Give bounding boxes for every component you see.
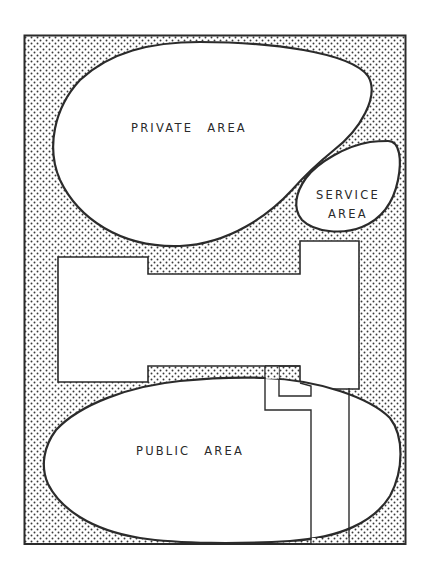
public-area-label-word2: AREA — [204, 446, 244, 458]
private-area-label-word2: AREA — [207, 123, 247, 135]
private-area-label: PRIVATEAREA — [131, 123, 247, 135]
public-area-bubble — [44, 378, 401, 543]
public-area-label: PUBLICAREA — [136, 446, 244, 458]
public-area-label-word1: PUBLIC — [136, 446, 190, 458]
site-zoning-diagram — [0, 0, 430, 581]
private-area-label-word1: PRIVATE — [131, 123, 193, 135]
service-area-label: SERVICE AREA — [316, 186, 380, 224]
service-area-label-line2: AREA — [316, 205, 380, 224]
walkway-stipple-patch — [266, 367, 279, 379]
walkway-bottom-stipple — [312, 538, 349, 543]
service-area-label-line1: SERVICE — [316, 186, 380, 205]
